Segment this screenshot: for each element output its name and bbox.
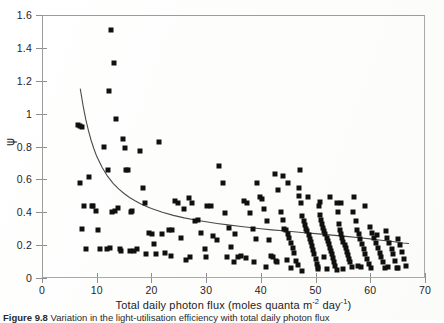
- data-point: [300, 268, 305, 273]
- data-point: [404, 263, 409, 268]
- data-point: [231, 259, 236, 264]
- data-point: [276, 188, 281, 193]
- fitted-decay-curve: [42, 15, 425, 278]
- data-point: [278, 210, 283, 215]
- data-point: [298, 168, 303, 173]
- data-point: [353, 219, 358, 224]
- data-point: [196, 218, 201, 223]
- data-point: [108, 27, 113, 32]
- data-point: [298, 201, 303, 206]
- x-axis-title-text: Total daily photon flux (moles quanta m: [116, 299, 313, 311]
- data-point: [247, 211, 252, 216]
- data-point: [253, 236, 258, 241]
- data-point: [243, 256, 248, 261]
- y-axis-tick-label: 0: [2, 273, 32, 283]
- x-axis-tick: [42, 278, 43, 283]
- data-point: [77, 181, 82, 186]
- data-point: [325, 266, 330, 271]
- data-point: [94, 209, 99, 214]
- data-point: [318, 199, 323, 204]
- x-axis-tick: [261, 278, 262, 283]
- data-point: [321, 255, 326, 260]
- data-point: [382, 266, 387, 271]
- data-point: [267, 238, 272, 243]
- plot-area: [42, 15, 425, 278]
- data-point: [163, 250, 168, 255]
- data-point: [126, 167, 131, 172]
- data-point: [289, 266, 294, 271]
- data-point: [223, 211, 228, 216]
- x-axis-tick-label: 0: [22, 285, 62, 296]
- y-axis-tick-label: 0.6: [2, 174, 32, 184]
- data-point: [285, 257, 290, 262]
- data-point: [97, 247, 102, 252]
- data-point: [149, 232, 154, 237]
- data-point: [335, 267, 340, 272]
- x-axis-tick: [425, 278, 426, 283]
- data-point: [187, 255, 192, 260]
- data-point: [369, 266, 374, 271]
- data-point: [105, 167, 110, 172]
- data-point: [170, 228, 175, 233]
- data-point: [272, 172, 277, 177]
- data-point: [214, 238, 219, 243]
- data-point: [111, 60, 116, 65]
- data-point: [138, 148, 143, 153]
- data-point: [262, 206, 267, 211]
- x-axis-tick-label: 70: [405, 285, 444, 296]
- data-point: [394, 266, 399, 271]
- data-point: [351, 195, 356, 200]
- x-axis-tick-label: 30: [186, 285, 226, 296]
- y-axis-title: ψ: [3, 131, 17, 153]
- data-point: [250, 226, 255, 231]
- data-point: [159, 232, 164, 237]
- data-point: [299, 213, 304, 218]
- data-point: [292, 250, 297, 255]
- data-point: [101, 144, 106, 149]
- data-point: [143, 252, 148, 257]
- data-point: [232, 232, 237, 237]
- data-point: [281, 174, 286, 179]
- data-point: [252, 260, 257, 265]
- data-point: [122, 146, 127, 151]
- data-point: [220, 180, 225, 185]
- data-point: [297, 193, 302, 198]
- data-point: [157, 139, 162, 144]
- data-point: [368, 225, 373, 230]
- data-point: [81, 203, 86, 208]
- data-point: [95, 228, 100, 233]
- data-point: [393, 258, 398, 263]
- y-axis-tick-label: 1.2: [2, 76, 32, 86]
- data-point: [259, 197, 264, 202]
- x-axis-tick-label: 40: [241, 285, 281, 296]
- data-point: [204, 254, 209, 259]
- y-axis-tick-label: 0.2: [2, 240, 32, 250]
- y-axis-tick-label: 1: [2, 109, 32, 119]
- data-point: [338, 201, 343, 206]
- data-point: [305, 195, 310, 200]
- data-point: [229, 244, 234, 249]
- data-point: [84, 247, 89, 252]
- x-axis-tick: [97, 278, 98, 283]
- x-axis-tick-label: 20: [131, 285, 171, 296]
- data-point: [226, 225, 231, 230]
- data-point: [106, 88, 111, 93]
- data-point: [107, 246, 112, 251]
- data-point: [296, 186, 301, 191]
- data-point: [374, 233, 379, 238]
- data-point: [151, 242, 156, 247]
- data-point: [217, 164, 222, 169]
- data-point: [264, 219, 269, 224]
- data-point: [182, 206, 187, 211]
- data-point: [275, 260, 280, 265]
- data-point: [395, 237, 400, 242]
- data-point: [208, 204, 213, 209]
- data-point: [400, 249, 405, 254]
- data-point: [280, 217, 285, 222]
- data-point: [224, 255, 229, 260]
- data-point: [202, 247, 207, 252]
- x-axis-tick: [316, 278, 317, 283]
- data-point: [286, 180, 291, 185]
- data-point: [153, 252, 158, 257]
